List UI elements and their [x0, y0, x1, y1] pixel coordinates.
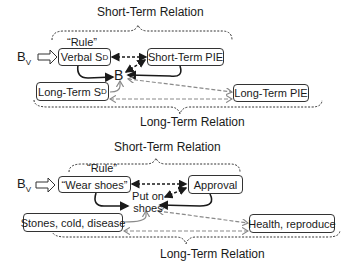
put-on-shoes-label: Put on shoes	[130, 190, 166, 214]
long-term-sd-box: Long-Term SD	[36, 82, 109, 101]
diagram-shoes-example: Short-Term Relation “Rule” BV “Wear shoe…	[0, 136, 356, 272]
verbal-sd-box: Verbal SD	[58, 48, 111, 66]
health-reproduce-box: Health, reproduce	[249, 214, 335, 233]
long-term-brace	[34, 100, 322, 114]
bv-label: BV	[17, 176, 31, 194]
long-term-pie-box: Long-Term PIE	[233, 84, 309, 102]
short-term-relation-label: Short-Term Relation	[97, 5, 204, 19]
short-term-relation-label: Short-Term Relation	[114, 140, 221, 154]
long-term-relation-label: Long-Term Relation	[160, 247, 265, 261]
bv-arrow-icon	[36, 178, 55, 192]
bv-label: BV	[17, 49, 31, 67]
diagram-abstract: Short-Term Relation “Rule” BV Verbal SD …	[0, 0, 356, 136]
short-term-pie-box: Short-Term PIE	[147, 48, 224, 66]
approval-box: Approval	[188, 175, 243, 194]
bv-arrow-icon	[38, 50, 57, 64]
behavior-label: B	[114, 67, 123, 83]
long-term-relation-label: Long-Term Relation	[140, 115, 245, 129]
rule-label: “Rule”	[67, 36, 97, 48]
stones-cold-disease-box: Stones, cold, disease	[23, 213, 123, 232]
wear-shoes-box: “Wear shoes”	[58, 176, 131, 193]
rule-label: “Rule”	[87, 162, 117, 174]
